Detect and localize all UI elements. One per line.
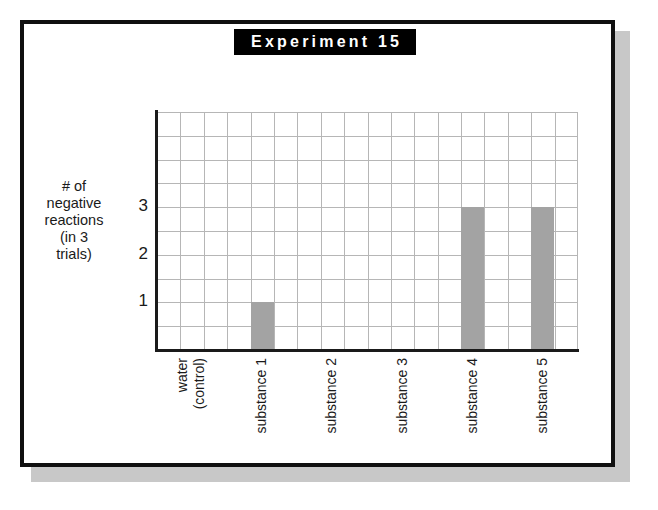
plot-right-edge <box>577 112 578 350</box>
bar <box>251 302 274 350</box>
gridline-horizontal <box>157 255 578 256</box>
x-tick-label: substance 4 <box>464 358 482 468</box>
x-tick-label-line: (control) <box>191 358 208 468</box>
gridline-horizontal <box>157 231 578 232</box>
gridline-horizontal <box>157 279 578 280</box>
gridline-vertical <box>368 112 369 350</box>
x-tick-label-line: substance 5 <box>534 358 551 468</box>
x-tick-label: substance 5 <box>534 358 552 468</box>
x-tick-label: substance 1 <box>253 358 271 468</box>
x-tick-label-line: substance 3 <box>394 358 411 468</box>
gridline-vertical <box>321 112 322 350</box>
y-tick-label-3: 3 <box>124 197 148 214</box>
y-axis-title-line-2: negative <box>28 195 120 212</box>
gridline-horizontal <box>157 160 578 161</box>
gridline-vertical <box>227 112 228 350</box>
gridline-vertical <box>414 112 415 350</box>
title-banner: Experiment 15 <box>234 29 416 55</box>
y-axis-title-line-3: reactions <box>28 212 120 229</box>
plot-area <box>157 112 578 350</box>
y-axis-title: # of negative reactions (in 3 trials) <box>28 178 120 263</box>
x-tick-label-line: substance 4 <box>464 358 481 468</box>
gridline-horizontal <box>157 136 578 137</box>
y-axis-line <box>155 110 158 352</box>
gridline-vertical <box>484 112 485 350</box>
gridline-vertical <box>438 112 439 350</box>
gridline-vertical <box>344 112 345 350</box>
gridline-vertical <box>297 112 298 350</box>
x-tick-label-line: substance 2 <box>323 358 340 468</box>
gridline-vertical <box>204 112 205 350</box>
plot-top-edge <box>157 112 578 113</box>
x-tick-label: water(control) <box>174 358 210 468</box>
bar <box>531 207 554 350</box>
y-tick-label-2: 2 <box>124 245 148 262</box>
x-tick-label-line: water <box>174 358 191 468</box>
y-axis-title-line-5: trials) <box>28 246 120 263</box>
bar <box>461 207 484 350</box>
gridline-horizontal <box>157 183 578 184</box>
y-tick-label-1: 1 <box>124 292 148 309</box>
gridline-vertical <box>508 112 509 350</box>
x-tick-label: substance 2 <box>323 358 341 468</box>
x-axis-line <box>155 349 579 352</box>
gridline-vertical <box>555 112 556 350</box>
y-axis-title-line-4: (in 3 <box>28 229 120 246</box>
grid <box>157 112 578 350</box>
x-tick-label-line: substance 1 <box>253 358 270 468</box>
y-axis-title-line-1: # of <box>28 178 120 195</box>
x-tick-label: substance 3 <box>394 358 412 468</box>
page-title: Experiment 15 <box>248 33 402 51</box>
gridline-vertical <box>391 112 392 350</box>
gridline-horizontal <box>157 326 578 327</box>
gridline-vertical <box>274 112 275 350</box>
gridline-horizontal <box>157 207 578 208</box>
gridline-horizontal <box>157 302 578 303</box>
gridline-vertical <box>180 112 181 350</box>
